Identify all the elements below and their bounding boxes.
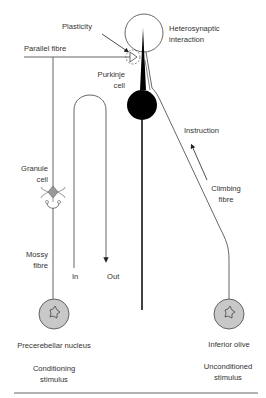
- label-precerebellar-nucleus: Precerebellar nucleus: [4, 341, 104, 351]
- label-granule-2: cell: [4, 175, 48, 185]
- label-plasticity: Plasticity: [62, 22, 92, 32]
- label-heterosynaptic-2: interaction: [169, 35, 204, 45]
- label-conditioning-1: Conditioning: [14, 364, 94, 374]
- label-conditioning-2: stimulus: [14, 375, 94, 385]
- label-inferior-olive: Inferior olive: [194, 340, 264, 350]
- precerebellar-nucleus: [39, 299, 69, 329]
- label-unconditioned-2: stimulus: [189, 373, 266, 383]
- purkinje-soma: [127, 90, 157, 120]
- heterosynaptic-circle: [125, 14, 163, 52]
- mossy-rosette: [47, 203, 59, 208]
- label-unconditioned-1: Unconditioned: [189, 362, 266, 372]
- label-purkinje-1: Purkinje: [80, 70, 125, 80]
- granule-cell-body: [48, 186, 58, 198]
- label-out: Out: [107, 272, 119, 282]
- synapse-terminal: [130, 52, 137, 62]
- instruction-arrow: [192, 146, 207, 180]
- label-parallel-fibre: Parallel fibre: [24, 44, 66, 54]
- plasticity-arrow: [102, 34, 127, 51]
- rosette-bulb-right: [58, 201, 61, 204]
- purkinje-dendrite: [140, 28, 146, 90]
- label-climbing-1: Climbing: [203, 184, 249, 194]
- label-granule-1: Granule: [4, 164, 48, 174]
- label-mossy-1: Mossy: [4, 250, 48, 260]
- label-heterosynaptic-1: Heterosynaptic: [169, 24, 220, 34]
- label-mossy-2: fibre: [4, 261, 48, 271]
- inferior-olive: [214, 299, 244, 329]
- label-climbing-2: fibre: [203, 195, 249, 205]
- label-instruction: Instruction: [184, 126, 219, 136]
- label-purkinje-2: cell: [80, 81, 125, 91]
- climbing-fibre: [146, 52, 229, 310]
- label-in: In: [72, 272, 78, 282]
- rosette-bulb-left: [46, 201, 49, 204]
- in-out-loop: [74, 95, 106, 268]
